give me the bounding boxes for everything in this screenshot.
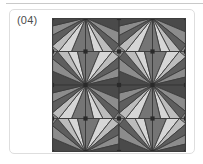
- pattern-vertex-dot: [117, 83, 121, 87]
- pattern-cell: [153, 119, 187, 153]
- pattern-cell: [86, 119, 120, 153]
- tiling-pattern: [52, 18, 186, 152]
- pattern-vertex-dot: [150, 83, 154, 87]
- pattern-cell: [52, 18, 86, 52]
- pattern-cell: [86, 18, 120, 52]
- pattern-cell: [119, 85, 153, 119]
- pattern-cell: [153, 52, 187, 86]
- pattern-vertex-dot: [83, 116, 87, 120]
- top-divider-rule: [6, 3, 203, 4]
- pattern-cell: [119, 52, 153, 86]
- pattern-vertex-dot: [150, 116, 154, 120]
- pattern-cell: [52, 85, 86, 119]
- pattern-vertex-dot: [83, 49, 87, 53]
- pattern-vertex-dot: [117, 116, 121, 120]
- figure-root: (04): [0, 0, 203, 164]
- pattern-cell: [119, 119, 153, 153]
- pattern-vertex-dot: [83, 83, 87, 87]
- pattern-vertex-dot: [117, 49, 121, 53]
- pattern-cell: [86, 85, 120, 119]
- pattern-cell: [153, 85, 187, 119]
- pattern-cell: [52, 52, 86, 86]
- tiling-pattern-svg: [52, 18, 186, 152]
- pattern-cell: [86, 52, 120, 86]
- pattern-cell: [52, 119, 86, 153]
- pattern-cell: [153, 18, 187, 52]
- pattern-cell: [119, 18, 153, 52]
- figure-label: (04): [17, 14, 37, 27]
- pattern-vertex-dot: [150, 49, 154, 53]
